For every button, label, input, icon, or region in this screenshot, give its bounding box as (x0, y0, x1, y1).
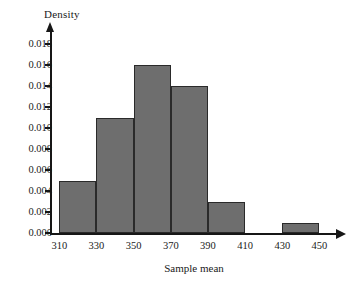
y-axis-tick-mark (45, 106, 52, 107)
histogram-bar (171, 86, 208, 233)
histogram-bar (282, 223, 319, 234)
x-axis-label: Sample mean (50, 262, 338, 274)
y-axis-tick-mark (45, 148, 52, 149)
y-axis-tick-mark (45, 190, 52, 191)
histogram-bar (208, 202, 245, 234)
y-axis-label: Density (44, 8, 80, 20)
y-axis-tick-mark (45, 169, 52, 170)
y-axis-tick-mark (45, 232, 52, 233)
y-axis-tick-mark (45, 43, 52, 44)
histogram-bar (59, 181, 96, 234)
x-axis-tick-label: 450 (299, 240, 339, 252)
y-axis-tick-mark (45, 85, 52, 86)
x-axis-line (50, 233, 338, 235)
x-axis-tick-label: 350 (114, 240, 154, 252)
y-axis-arrowhead-icon (46, 22, 54, 32)
x-axis-tick-label: 410 (225, 240, 265, 252)
histogram-bar (96, 118, 133, 234)
y-axis-tick-mark (45, 127, 52, 128)
x-axis-tick-label: 390 (188, 240, 228, 252)
x-axis-arrowhead-icon (336, 229, 346, 239)
y-axis-tick-mark (45, 211, 52, 212)
x-axis-tick-label: 370 (151, 240, 191, 252)
x-axis-tick-label: 430 (262, 240, 302, 252)
histogram-bar (134, 65, 171, 233)
histogram-figure: Density 0.0000.0020.0040.0060.0080.0100.… (0, 0, 363, 290)
x-axis-tick-label: 330 (76, 240, 116, 252)
y-axis-tick-mark (45, 64, 52, 65)
x-axis-tick-label: 310 (39, 240, 79, 252)
